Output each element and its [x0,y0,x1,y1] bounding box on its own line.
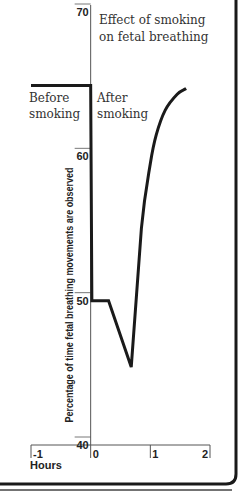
panel-border [0,0,236,484]
chart-title-line-2: on fetal breathing [99,30,209,44]
series-line [31,86,186,367]
x-axis-label: Hours [30,459,62,471]
y-tick-label: 60 [76,150,88,162]
chart: 40506070 -1012 Effect of smoking on feta… [0,0,240,491]
x-tick-label: 0 [93,448,99,460]
y-tick-label: 50 [76,295,88,307]
y-tick-label: 70 [76,6,88,18]
annotation-before-line-1: Before [29,91,69,105]
annotation-before-line-2: smoking [29,107,81,121]
x-tick-label: 2 [202,448,208,460]
annotation-after-line-2: smoking [97,107,149,121]
x-tick-label: 1 [152,448,158,460]
y-tick-label: 40 [76,439,88,451]
chart-title-line-1: Effect of smoking [99,13,206,27]
annotation-after-line-1: After [96,91,128,105]
y-axis-label: Percentage of time fetal breathing movem… [64,168,75,423]
